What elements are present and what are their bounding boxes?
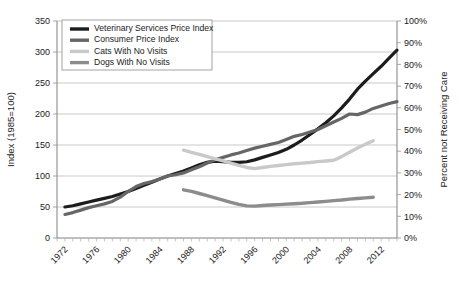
- y2-axis-title: Percent not Receiving Care: [438, 71, 449, 187]
- y2-tick-label: 60%: [404, 103, 422, 113]
- legend-label-0: Veterinary Services Price Index: [94, 23, 214, 33]
- x-tick-label: 1996: [238, 244, 259, 265]
- x-tick-label: 2012: [365, 244, 386, 265]
- y2-tick-label: 70%: [404, 81, 422, 91]
- x-tick-label: 2008: [333, 244, 354, 265]
- y2-tick-label: 40%: [404, 146, 422, 156]
- y-tick-label: 0: [45, 233, 50, 243]
- x-tick-label: 1984: [143, 244, 164, 265]
- y-tick-label: 300: [35, 47, 50, 57]
- y2-tick-label: 0%: [404, 233, 417, 243]
- x-tick-label: 2000: [270, 244, 291, 265]
- y2-tick-label: 50%: [404, 125, 422, 135]
- y2-tick-label: 100%: [404, 16, 427, 26]
- legend-label-3: Dogs With No Visits: [94, 57, 170, 67]
- y-axis-title: Index (1985=100): [5, 92, 16, 167]
- axis-titles: Index (1985=100)Percent not Receiving Ca…: [5, 71, 449, 187]
- y-axis-ticks: 050100150200250300350: [35, 16, 57, 243]
- series-line-0: [65, 50, 397, 207]
- y-tick-label: 350: [35, 16, 50, 26]
- x-tick-label: 1992: [207, 244, 228, 265]
- data-series: [65, 50, 397, 214]
- legend-label-2: Cats With No Visits: [94, 46, 167, 56]
- x-tick-label: 1980: [112, 244, 133, 265]
- y2-tick-label: 10%: [404, 212, 422, 222]
- y-tick-label: 100: [35, 171, 50, 181]
- y-tick-label: 150: [35, 140, 50, 150]
- y2-tick-label: 30%: [404, 168, 422, 178]
- y2-tick-label: 20%: [404, 190, 422, 200]
- legend-label-1: Consumer Price Index: [94, 34, 180, 44]
- y-tick-label: 50: [40, 202, 50, 212]
- x-tick-label: 1988: [175, 244, 196, 265]
- line-chart: 050100150200250300350 0%10%20%30%40%50%6…: [0, 0, 459, 285]
- y2-axis-ticks: 0%10%20%30%40%50%60%70%80%90%100%: [397, 16, 427, 243]
- y2-tick-label: 80%: [404, 60, 422, 70]
- y2-tick-label: 90%: [404, 38, 422, 48]
- x-tick-label: 1976: [80, 244, 101, 265]
- series-line-3: [184, 190, 374, 206]
- series-line-1: [65, 102, 397, 215]
- y-tick-label: 200: [35, 109, 50, 119]
- y-tick-label: 250: [35, 78, 50, 88]
- chart-legend: Veterinary Services Price IndexConsumer …: [62, 20, 214, 70]
- x-tick-label: 1972: [49, 244, 70, 265]
- x-tick-label: 2004: [302, 244, 323, 265]
- chart-container: 050100150200250300350 0%10%20%30%40%50%6…: [0, 0, 459, 285]
- x-axis-ticks: 1972197619801984198819921996200020042008…: [49, 238, 397, 266]
